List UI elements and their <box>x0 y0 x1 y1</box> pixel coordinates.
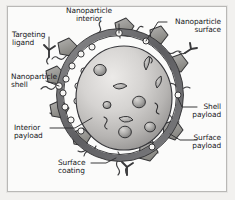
label-nanoparticle-surface: Nanoparticle surface <box>111 18 221 35</box>
label-shell-payload: Shell payload <box>161 103 221 120</box>
label-surface-payload: Surface payload <box>155 134 221 151</box>
figure-container: Targeting ligand Nanoparticle interior N… <box>0 0 235 200</box>
label-nanoparticle-interior: Nanoparticle interior <box>60 7 118 24</box>
label-nanoparticle-shell: Nanoparticle shell <box>11 73 57 90</box>
label-surface-coating: Surface coating <box>58 159 85 176</box>
label-interior-payload: Interior payload <box>14 124 43 141</box>
label-targeting-ligand: Targeting ligand <box>12 31 45 48</box>
